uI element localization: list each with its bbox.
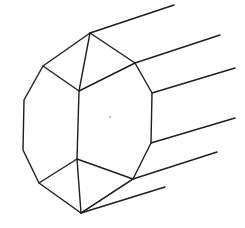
top-ridge-line [79, 33, 90, 91]
facet-lines [39, 33, 135, 213]
lower-facet-line [39, 159, 133, 183]
receding-edges [81, 5, 235, 213]
receding-edge-6 [81, 187, 165, 213]
receding-edge-2 [135, 35, 220, 63]
crystal-prism-diagram [0, 0, 245, 228]
receding-edge-4 [151, 118, 235, 143]
receding-edge-3 [152, 68, 235, 93]
receding-edge-5 [133, 152, 217, 179]
prism-outline [23, 33, 152, 213]
upper-facet-line [43, 63, 135, 91]
center-mark [109, 116, 111, 118]
bottom-right-facet-line [81, 179, 133, 213]
receding-edge-1 [90, 5, 174, 33]
bottom-ridge-line [77, 159, 81, 213]
center-ridge-line [77, 91, 79, 159]
